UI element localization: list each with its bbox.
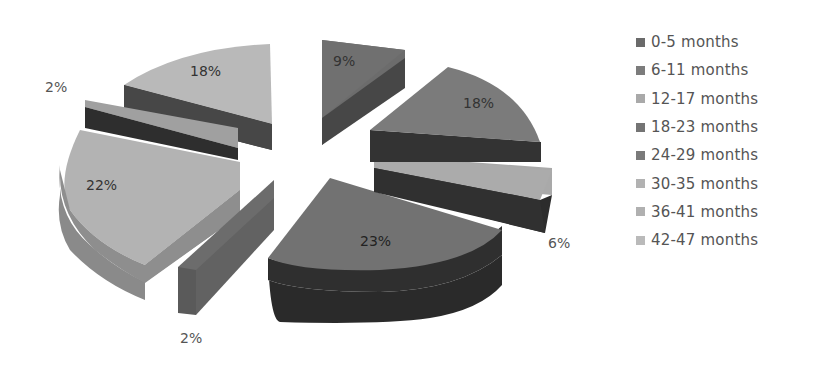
legend-item-24-29: 24-29 months: [636, 141, 758, 169]
legend-swatch-icon: [636, 123, 645, 132]
legend-swatch-icon: [636, 151, 645, 160]
legend-swatch-icon: [636, 94, 645, 103]
legend-swatch-icon: [636, 236, 645, 245]
legend-item-36-41: 36-41 months: [636, 198, 758, 226]
slice-label-18-23: 23%: [360, 233, 391, 249]
slice-label-6-11: 18%: [463, 95, 494, 111]
legend-swatch-icon: [636, 179, 645, 188]
legend-label: 42-47 months: [651, 231, 758, 249]
slice-label-42-47: 18%: [190, 63, 221, 79]
legend-swatch-icon: [636, 38, 645, 47]
chart-legend: 0-5 months 6-11 months 12-17 months 18-2…: [636, 28, 758, 254]
legend-label: 36-41 months: [651, 203, 758, 221]
legend-label: 12-17 months: [651, 90, 758, 108]
legend-label: 6-11 months: [651, 61, 749, 79]
legend-item-42-47: 42-47 months: [636, 226, 758, 254]
slice-label-36-41: 2%: [45, 79, 67, 95]
legend-item-30-35: 30-35 months: [636, 169, 758, 197]
legend-swatch-icon: [636, 66, 645, 75]
legend-label: 18-23 months: [651, 118, 758, 136]
slice-label-0-5: 9%: [333, 53, 355, 69]
slice-label-30-35: 22%: [86, 177, 117, 193]
slice-label-12-17: 6%: [548, 235, 570, 251]
legend-item-0-5: 0-5 months: [636, 28, 758, 56]
slice-label-24-29: 2%: [180, 330, 202, 346]
legend-label: 24-29 months: [651, 146, 758, 164]
legend-swatch-icon: [636, 207, 645, 216]
legend-item-18-23: 18-23 months: [636, 113, 758, 141]
legend-label: 0-5 months: [651, 33, 739, 51]
legend-item-6-11: 6-11 months: [636, 56, 758, 84]
legend-item-12-17: 12-17 months: [636, 85, 758, 113]
legend-label: 30-35 months: [651, 175, 758, 193]
